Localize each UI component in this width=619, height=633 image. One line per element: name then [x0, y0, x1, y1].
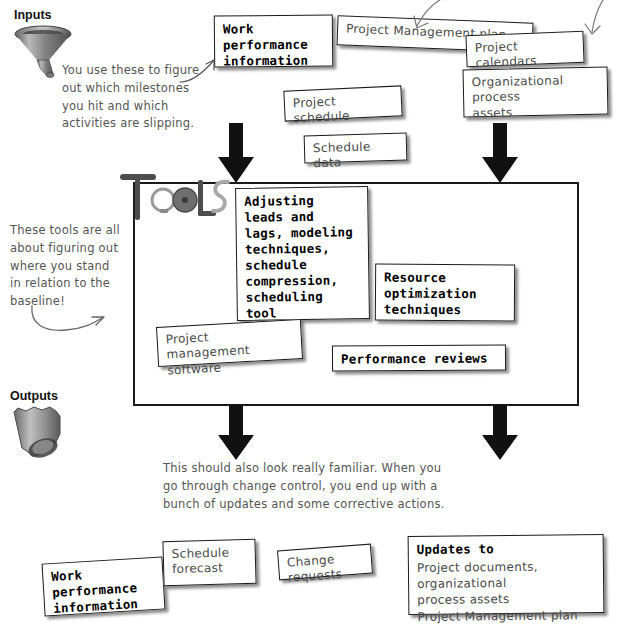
- outputs-note: This should also look really familiar. W…: [163, 460, 563, 513]
- bucket-icon: [8, 404, 70, 464]
- output-box-updates-to-title: Updates to: [417, 540, 595, 558]
- input-box-schedule-data[interactable]: Schedule data: [304, 133, 408, 164]
- section-label-inputs: Inputs: [14, 8, 52, 22]
- curved-arrow-icon-left: [398, 0, 448, 36]
- tools-note: These tools are all about figuring out w…: [10, 222, 142, 311]
- diagram-canvas: Inputs You u: [0, 0, 619, 633]
- arrow-down-icon-outputs-right: [478, 404, 522, 462]
- tool-box-performance-reviews[interactable]: Performance reviews: [332, 344, 506, 371]
- output-box-updates-to-items: Project documents, organizational proces…: [417, 558, 596, 625]
- input-box-work-performance-information[interactable]: Work performance information: [214, 14, 334, 67]
- output-box-change-requests[interactable]: Change requests: [277, 544, 373, 581]
- input-box-project-calendars[interactable]: Project calendars: [465, 31, 584, 68]
- arrow-down-icon-outputs-left: [214, 404, 258, 462]
- tool-box-project-management-software[interactable]: Project management software: [156, 319, 303, 367]
- tool-box-resource-optimization-techniques[interactable]: Resource optimization techniques: [375, 264, 515, 322]
- curved-arrow-icon-right: [570, 0, 614, 46]
- input-box-project-schedule[interactable]: Project schedule: [283, 85, 402, 121]
- output-box-updates-to[interactable]: Updates to Project documents, organizati…: [408, 534, 605, 615]
- section-label-outputs: Outputs: [10, 389, 58, 403]
- tools-wordmark-icon: [118, 168, 230, 230]
- output-box-schedule-forecast[interactable]: Schedule forecast: [162, 539, 256, 587]
- tool-box-adjusting-leads-and-lags[interactable]: Adjusting leads and lags, modeling techn…: [235, 186, 370, 321]
- input-box-organizational-process-assets[interactable]: Organizational process assets: [463, 66, 609, 117]
- output-box-work-performance-information[interactable]: Work performance information: [42, 556, 166, 616]
- curved-arrow-icon-tools: [26, 304, 112, 342]
- arrow-down-icon-inputs-right: [478, 123, 522, 185]
